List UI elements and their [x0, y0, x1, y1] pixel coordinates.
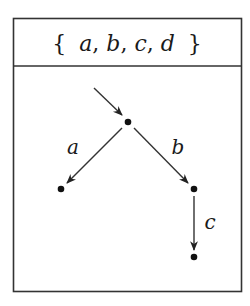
open-brace: {: [52, 31, 66, 56]
title-element-d: d: [161, 31, 175, 56]
separator: ,: [147, 31, 154, 56]
title-element-a: a: [79, 31, 92, 56]
node-right: [191, 186, 198, 193]
edge-label-c: c: [204, 210, 215, 234]
close-brace: }: [188, 31, 202, 56]
separator: ,: [120, 31, 127, 56]
node-root: [125, 119, 132, 126]
set-title: { a, b, c, d }: [52, 31, 202, 56]
edge-label-b: b: [172, 135, 185, 159]
title-element-b: b: [106, 31, 120, 56]
separator: ,: [92, 31, 99, 56]
node-left: [58, 186, 65, 193]
diagram: { a, b, c, d } a b c: [0, 0, 250, 306]
title-element-c: c: [134, 31, 146, 56]
node-bottom: [191, 254, 198, 261]
frame-border: [14, 19, 242, 292]
start-arrow: [94, 88, 122, 115]
edge-label-a: a: [67, 135, 79, 159]
